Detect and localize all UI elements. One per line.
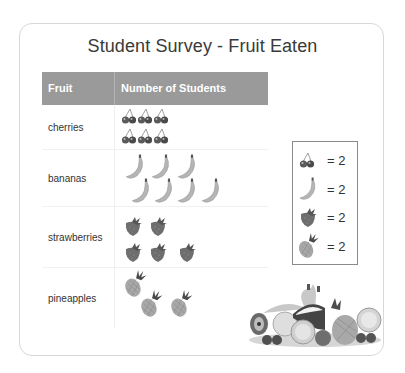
banana-icon [297, 177, 319, 201]
chart-title: Student Survey - Fruit Eaten [0, 36, 405, 57]
legend-label: = 2 [327, 210, 345, 225]
cherry-icon [153, 127, 171, 145]
row-icons [115, 105, 268, 149]
strawberry-icon [298, 206, 318, 228]
legend-item-strawberries: = 2 [293, 204, 357, 230]
table-row: cherries [42, 105, 268, 150]
legend-item-bananas: = 2 [293, 176, 357, 202]
table-row: pineapples [42, 268, 268, 328]
banana-icon [123, 154, 147, 180]
banana-icon [199, 178, 223, 204]
table-header: Fruit Number of Students [42, 72, 268, 105]
legend-label: = 2 [327, 153, 345, 168]
banana-icon [129, 178, 153, 204]
legend-item-cherries: = 2 [293, 147, 357, 173]
legend-label: = 2 [327, 182, 345, 197]
header-number-of-students: Number of Students [115, 72, 268, 105]
table-row: strawberries [42, 207, 268, 268]
pineapple-icon [297, 233, 319, 259]
banana-icon [175, 178, 199, 204]
cherry-icon [153, 107, 171, 125]
strawberry-icon [123, 241, 143, 263]
pictograph-table: Fruit Number of Students cherries banana… [42, 72, 268, 328]
row-label: bananas [42, 150, 115, 206]
legend-label: = 2 [327, 239, 345, 254]
row-label: strawberries [42, 207, 115, 267]
strawberry-icon [148, 215, 168, 237]
strawberry-icon [148, 241, 168, 263]
row-icons [115, 150, 268, 206]
legend-key: = 2 = 2 = 2 = 2 [292, 141, 358, 265]
banana-icon [149, 154, 173, 180]
header-fruit: Fruit [42, 72, 115, 105]
strawberry-icon [177, 241, 197, 263]
row-label: pineapples [42, 268, 115, 328]
pineapple-icon [169, 290, 193, 318]
banana-icon [175, 154, 199, 180]
row-label: cherries [42, 105, 115, 149]
cherry-icon [299, 151, 317, 169]
pineapple-icon [139, 290, 163, 318]
legend-item-pineapples: = 2 [293, 233, 357, 259]
table-row: bananas [42, 150, 268, 207]
row-icons [115, 207, 268, 267]
strawberry-icon [123, 215, 143, 237]
banana-icon [152, 178, 176, 204]
fruit-pile-illustration [245, 278, 385, 350]
